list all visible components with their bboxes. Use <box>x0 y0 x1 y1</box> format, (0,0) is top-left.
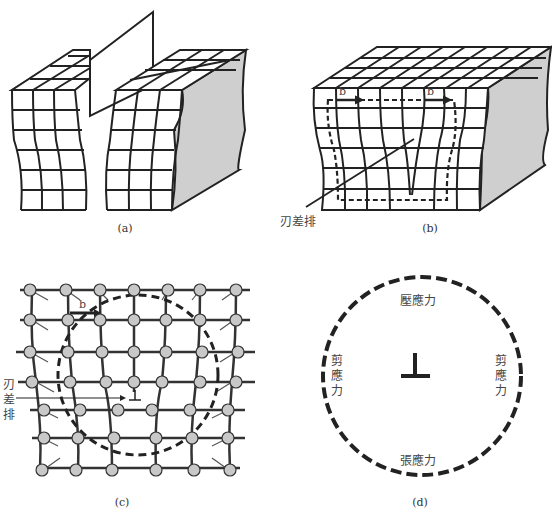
burgers-vector-label-2: b <box>427 85 434 98</box>
figure-canvas <box>0 0 552 519</box>
caption-c: (c) <box>115 496 130 509</box>
compressive-stress-label: 壓應力 <box>400 291 436 308</box>
edge-dislocation-label-b: 刃差排 <box>280 212 316 229</box>
caption-b: (b) <box>422 222 438 235</box>
shear-stress-label-right: 剪應力 <box>494 354 508 399</box>
edge-dislocation-label-c: 刃差排 <box>2 378 16 423</box>
tensile-stress-label: 張應力 <box>400 451 436 468</box>
panel-b-block <box>306 47 551 210</box>
caption-a: (a) <box>117 222 132 235</box>
burgers-vector-label-c: b <box>79 298 86 311</box>
burgers-vector-label-1: b <box>339 85 346 98</box>
caption-d: (d) <box>412 496 428 509</box>
panel-a-block <box>12 12 246 210</box>
shear-stress-label-left: 剪應力 <box>330 354 344 399</box>
